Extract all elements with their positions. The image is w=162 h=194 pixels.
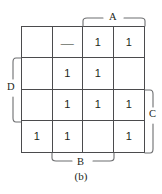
karnaugh-map-figure: — 1 1 1 1 1 1 1 1 1 1 A B C D (b) bbox=[0, 0, 162, 194]
bracket-a-left bbox=[83, 18, 103, 26]
kmap-cell-r3c3: 1 bbox=[83, 90, 114, 121]
kmap-cell-r2c3: 1 bbox=[83, 58, 114, 89]
kmap-cell-r2c2: 1 bbox=[53, 58, 84, 89]
bracket-d-top bbox=[13, 58, 21, 79]
variable-label-b: B bbox=[77, 157, 84, 168]
variable-label-a: A bbox=[109, 12, 117, 23]
bracket-d-bottom bbox=[13, 97, 21, 122]
kmap-cell-r3c2: 1 bbox=[53, 90, 84, 121]
kmap-cell-r1c1 bbox=[22, 27, 53, 58]
bracket-b-right bbox=[93, 153, 114, 161]
kmap-cell-r2c1 bbox=[22, 58, 53, 89]
kmap-grid: — 1 1 1 1 1 1 1 1 1 1 bbox=[21, 26, 145, 153]
kmap-cell-r1c3: 1 bbox=[83, 27, 114, 58]
bracket-a-right bbox=[124, 18, 145, 26]
bracket-b-left bbox=[52, 153, 72, 161]
kmap-cell-r1c2: — bbox=[53, 27, 84, 58]
kmap-cell-r4c4: 1 bbox=[114, 121, 145, 152]
variable-label-d: D bbox=[7, 82, 15, 93]
kmap-cell-r2c4 bbox=[114, 58, 145, 89]
variable-label-c: C bbox=[149, 109, 156, 120]
kmap-cell-r4c2: 1 bbox=[53, 121, 84, 152]
kmap-cell-r1c4: 1 bbox=[114, 27, 145, 58]
kmap-cell-r4c1: 1 bbox=[22, 121, 53, 152]
bracket-c-top bbox=[145, 90, 153, 107]
kmap-cell-r4c3 bbox=[83, 121, 114, 152]
bracket-c-bottom bbox=[145, 124, 153, 153]
kmap-cell-r3c1 bbox=[22, 90, 53, 121]
figure-caption: (b) bbox=[0, 170, 162, 182]
kmap-cell-r3c4: 1 bbox=[114, 90, 145, 121]
